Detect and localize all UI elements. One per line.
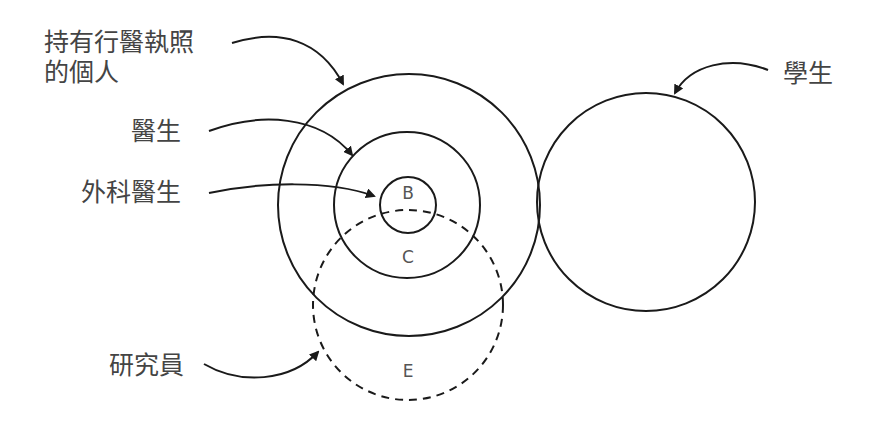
- licensed-label: 持有行醫執照 的個人: [44, 28, 194, 88]
- surgeon-arrow: [209, 184, 374, 196]
- student-label: 學生: [783, 59, 833, 89]
- researcher-label: 研究員: [109, 351, 184, 381]
- region-e: E: [403, 361, 414, 381]
- licensed-label-line2: 的個人: [44, 58, 194, 88]
- region-c: C: [402, 247, 414, 267]
- licensed-label-line1: 持有行醫執照: [44, 28, 194, 58]
- surgeon-label: 外科醫生: [81, 178, 181, 208]
- student-arrow: [675, 63, 768, 93]
- licensed-individuals-circle: [278, 74, 540, 336]
- students-circle: [537, 93, 755, 311]
- researcher-arrow: [204, 352, 318, 378]
- doctor-arrow: [209, 120, 352, 155]
- region-b: B: [402, 183, 414, 203]
- doctor-label: 醫生: [131, 117, 181, 147]
- licensed-arrow: [232, 37, 343, 84]
